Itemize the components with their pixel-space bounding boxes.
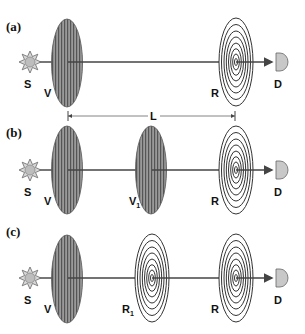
vortex-plate-label: V xyxy=(44,195,52,207)
panel-label-b: (b) xyxy=(6,125,22,140)
zone-plate-label: R xyxy=(211,87,219,99)
optical-setup-diagram: (a) S V R D L (b) S V V1 R xyxy=(0,0,305,334)
detector-label: D xyxy=(274,294,282,306)
detector-icon xyxy=(276,161,288,179)
dimension-l: L xyxy=(68,110,235,122)
panel-a: (a) S V R D xyxy=(6,18,288,107)
dimension-arrow-left-icon xyxy=(68,114,72,118)
dimension-arrow-right-icon xyxy=(231,114,235,118)
vortex-plate-v-icon xyxy=(52,19,83,107)
panel-label-c: (c) xyxy=(6,224,20,239)
source-label: S xyxy=(24,294,31,306)
detector-label: D xyxy=(274,78,282,90)
zone-plate-label: R xyxy=(211,195,219,207)
detector-icon xyxy=(276,269,288,287)
panel-b: (b) S V V1 R D xyxy=(6,125,288,214)
zone-plate-r1-label: R1 xyxy=(122,303,134,317)
vortex-plate-label: V xyxy=(44,303,52,315)
source-label: S xyxy=(24,186,31,198)
detector-icon xyxy=(276,53,288,71)
vortex-plate-label: V xyxy=(44,87,52,99)
zone-plate-label: R xyxy=(211,303,219,315)
vortex-plate-v-icon xyxy=(52,235,83,323)
panel-label-a: (a) xyxy=(6,19,21,34)
source-label: S xyxy=(24,78,31,90)
source-icon xyxy=(19,267,41,289)
panel-c: (c) S V R1 R D xyxy=(6,224,288,323)
dimension-label: L xyxy=(150,110,157,122)
source-icon xyxy=(19,159,41,181)
detector-label: D xyxy=(274,186,282,198)
source-icon xyxy=(19,51,41,73)
